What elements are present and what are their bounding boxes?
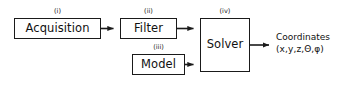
node-solver-label: Solver bbox=[207, 39, 244, 51]
step-tag-solver: (iv) bbox=[200, 8, 250, 15]
step-tag-filter: (ii) bbox=[120, 8, 177, 15]
output-coordinates-title: Coordinates bbox=[276, 32, 330, 44]
node-acquisition: Acquisition bbox=[14, 18, 101, 39]
node-model: Model bbox=[132, 54, 185, 75]
node-filter: Filter bbox=[120, 18, 177, 39]
node-acquisition-label: Acquisition bbox=[25, 23, 89, 35]
output-coordinates-variables: (x,y,z,Θ,φ) bbox=[276, 44, 330, 56]
flowchart-diagram: (i) (ii) (iii) (iv) Acquisition Filter M… bbox=[0, 0, 347, 85]
node-solver: Solver bbox=[200, 18, 250, 72]
step-tag-model: (iii) bbox=[132, 44, 185, 51]
node-filter-label: Filter bbox=[134, 23, 163, 35]
output-coordinates: Coordinates (x,y,z,Θ,φ) bbox=[276, 32, 330, 55]
node-model-label: Model bbox=[141, 59, 176, 71]
step-tag-acquisition: (i) bbox=[14, 8, 101, 15]
